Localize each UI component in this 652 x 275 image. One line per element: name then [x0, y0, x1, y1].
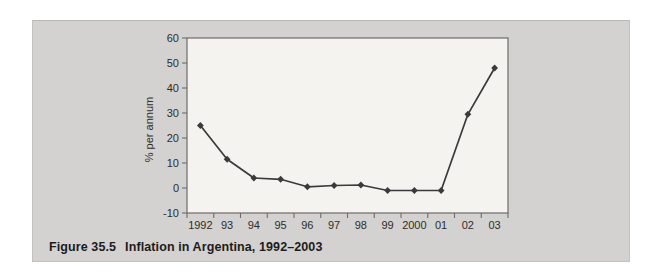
x-tick-label: 2000 — [402, 219, 426, 231]
x-tick-label: 02 — [462, 219, 474, 231]
y-tick-label: 0 — [173, 182, 179, 194]
x-tick-label: 95 — [275, 219, 287, 231]
x-tick-label: 93 — [221, 219, 233, 231]
x-tick-label: 94 — [248, 219, 260, 231]
y-tick-label: 40 — [167, 82, 179, 94]
y-tick-label: 20 — [167, 132, 179, 144]
figure-panel: 6050403020100-10199293949596979899200001… — [32, 20, 630, 262]
y-tick-label: 30 — [167, 107, 179, 119]
inflation-line-chart: 6050403020100-10199293949596979899200001… — [33, 21, 631, 237]
y-tick-label: 60 — [167, 32, 179, 44]
y-tick-label: 50 — [167, 57, 179, 69]
y-tick-label: -10 — [163, 207, 179, 219]
y-tick-label: 10 — [167, 157, 179, 169]
x-tick-label: 98 — [355, 219, 367, 231]
x-tick-label: 03 — [489, 219, 501, 231]
x-tick-label: 01 — [435, 219, 447, 231]
figure-caption-number: Figure 35.5 — [49, 240, 116, 254]
plot-area — [187, 38, 508, 213]
figure-caption-title: Inflation in Argentina, 1992–2003 — [125, 240, 322, 254]
x-tick-label: 96 — [301, 219, 313, 231]
y-axis-title: % per annum — [143, 97, 155, 162]
x-tick-label: 1992 — [188, 219, 212, 231]
x-tick-label: 99 — [382, 219, 394, 231]
figure-caption: Figure 35.5Inflation in Argentina, 1992–… — [49, 240, 322, 254]
x-tick-label: 97 — [328, 219, 340, 231]
